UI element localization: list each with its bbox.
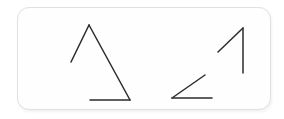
sketch-card[interactable] xyxy=(17,7,271,110)
canvas-root xyxy=(0,0,284,119)
